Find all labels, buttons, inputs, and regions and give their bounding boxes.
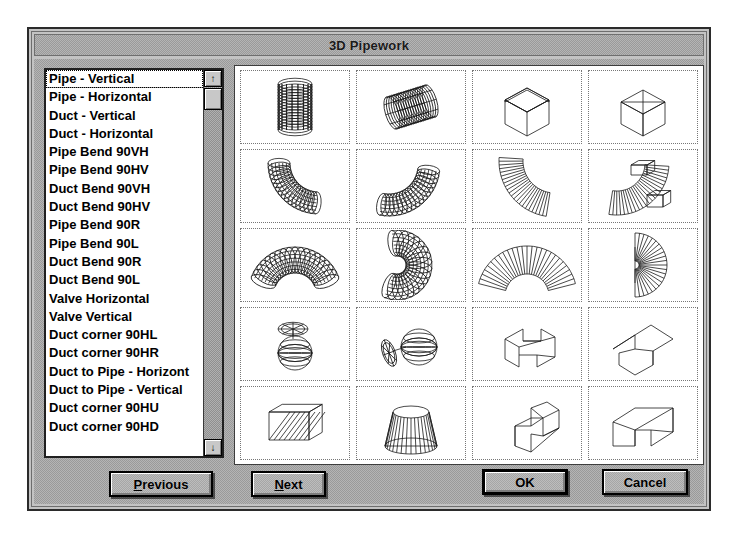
thumbnail-cell-duct-vertical[interactable] — [472, 70, 582, 144]
thumbnail-cell-duct-bend-90l[interactable] — [588, 228, 698, 302]
list-item[interactable]: Duct corner 90HU — [46, 399, 203, 417]
dialog-client-area: Pipe - VerticalPipe - HorizontalDuct - V… — [34, 59, 704, 504]
duct-bend-90l-thumb — [591, 230, 695, 300]
thumbnail-cell-pipe-bend-90r[interactable] — [240, 228, 350, 302]
list-item[interactable]: Pipe Bend 90VH — [46, 143, 203, 161]
duct-horizontal-thumb — [591, 72, 695, 142]
thumbnail-cell-duct-corner-90hd[interactable] — [588, 386, 698, 460]
thumbnail-cell-duct-horizontal[interactable] — [588, 70, 698, 144]
thumbnail-cell-pipe-horizontal[interactable] — [356, 70, 466, 144]
list-item[interactable]: Duct Bend 90HV — [46, 198, 203, 216]
next-button[interactable]: Next — [251, 471, 326, 497]
duct-bend-90hv-thumb — [591, 151, 695, 221]
dialog-window: 3D Pipework Pipe - VerticalPipe - Horizo… — [27, 27, 711, 511]
part-listbox[interactable]: Pipe - VerticalPipe - HorizontalDuct - V… — [44, 68, 224, 458]
listbox-items[interactable]: Pipe - VerticalPipe - HorizontalDuct - V… — [46, 70, 203, 456]
scrollbar-thumb[interactable] — [204, 88, 222, 110]
arrow-up-icon: ↑ — [211, 74, 216, 84]
pipe-bend-90r-thumb — [243, 230, 347, 300]
duct-bend-90vh-thumb — [475, 151, 579, 221]
duct-corner-90hd-thumb — [591, 388, 695, 458]
valve-horizontal-thumb — [243, 309, 347, 379]
thumbnail-cell-duct-to-pipe-horizontal[interactable] — [240, 386, 350, 460]
cancel-button[interactable]: Cancel — [602, 469, 688, 495]
thumbnail-cell-duct-bend-90vh[interactable] — [472, 149, 582, 223]
previous-button-label: Previous — [134, 477, 189, 492]
thumbnail-cell-pipe-vertical[interactable] — [240, 70, 350, 144]
duct-to-pipe-horizontal-thumb — [243, 388, 347, 458]
duct-corner-90hr-thumb — [591, 309, 695, 379]
thumbnail-cell-duct-corner-90hr[interactable] — [588, 307, 698, 381]
duct-vertical-thumb — [475, 72, 579, 142]
thumbnail-cell-pipe-bend-90hv[interactable] — [356, 149, 466, 223]
thumbnail-cell-duct-bend-90hv[interactable] — [588, 149, 698, 223]
list-item[interactable]: Valve Vertical — [46, 308, 203, 326]
pipe-bend-90l-thumb — [359, 230, 463, 300]
thumbnail-cell-duct-to-pipe-vertical[interactable] — [356, 386, 466, 460]
pipe-vertical-thumb — [243, 72, 347, 142]
arrow-down-icon: ↓ — [211, 443, 216, 453]
list-item[interactable]: Pipe - Vertical — [46, 70, 203, 88]
listbox-scrollbar[interactable]: ↑ ↓ — [203, 70, 222, 456]
list-item[interactable]: Duct to Pipe - Horizont — [46, 363, 203, 381]
thumbnail-cell-valve-horizontal[interactable] — [240, 307, 350, 381]
next-rest: ext — [284, 477, 303, 492]
ok-button-label: OK — [515, 475, 535, 490]
list-item[interactable]: Pipe - Horizontal — [46, 88, 203, 106]
scroll-up-button[interactable]: ↑ — [204, 70, 222, 87]
duct-corner-90hl-thumb — [475, 309, 579, 379]
thumbnail-cell-pipe-bend-90vh[interactable] — [240, 149, 350, 223]
duct-bend-90r-thumb — [475, 230, 579, 300]
list-item[interactable]: Duct Bend 90VH — [46, 180, 203, 198]
scroll-down-button[interactable]: ↓ — [204, 439, 222, 456]
list-item[interactable]: Pipe Bend 90L — [46, 235, 203, 253]
list-item[interactable]: Pipe Bend 90HV — [46, 161, 203, 179]
thumbnail-grid — [240, 70, 698, 460]
screen: 3D Pipework Pipe - VerticalPipe - Horizo… — [0, 0, 739, 537]
previous-button[interactable]: Previous — [109, 471, 213, 497]
duct-corner-90hu-thumb — [475, 388, 579, 458]
valve-vertical-thumb — [359, 309, 463, 379]
pipe-bend-90vh-thumb — [243, 151, 347, 221]
thumbnail-cell-duct-corner-90hu[interactable] — [472, 386, 582, 460]
ok-button[interactable]: OK — [482, 469, 568, 495]
list-item[interactable]: Duct corner 90HR — [46, 344, 203, 362]
list-item[interactable]: Duct - Horizontal — [46, 125, 203, 143]
pipe-horizontal-thumb — [359, 72, 463, 142]
list-item[interactable]: Duct corner 90HL — [46, 326, 203, 344]
next-accel: N — [274, 477, 283, 492]
list-item[interactable]: Duct Bend 90R — [46, 253, 203, 271]
previous-accel: P — [134, 477, 143, 492]
title-bar[interactable]: 3D Pipework — [34, 34, 704, 56]
pipe-bend-90hv-thumb — [359, 151, 463, 221]
list-item[interactable]: Duct corner 90HD — [46, 418, 203, 436]
thumbnail-cell-duct-bend-90r[interactable] — [472, 228, 582, 302]
list-item[interactable]: Valve Horizontal — [46, 290, 203, 308]
thumbnail-cell-duct-corner-90hl[interactable] — [472, 307, 582, 381]
window-title: 3D Pipework — [329, 38, 409, 53]
preview-panel — [234, 65, 704, 465]
next-button-label: Next — [274, 477, 302, 492]
duct-to-pipe-vertical-thumb — [359, 388, 463, 458]
previous-rest: revious — [142, 477, 188, 492]
thumbnail-cell-valve-vertical[interactable] — [356, 307, 466, 381]
list-item[interactable]: Duct Bend 90L — [46, 271, 203, 289]
cancel-button-label: Cancel — [624, 475, 667, 490]
list-item[interactable]: Pipe Bend 90R — [46, 216, 203, 234]
list-item[interactable]: Duct to Pipe - Vertical — [46, 381, 203, 399]
list-item[interactable]: Duct - Vertical — [46, 107, 203, 125]
thumbnail-cell-pipe-bend-90l[interactable] — [356, 228, 466, 302]
